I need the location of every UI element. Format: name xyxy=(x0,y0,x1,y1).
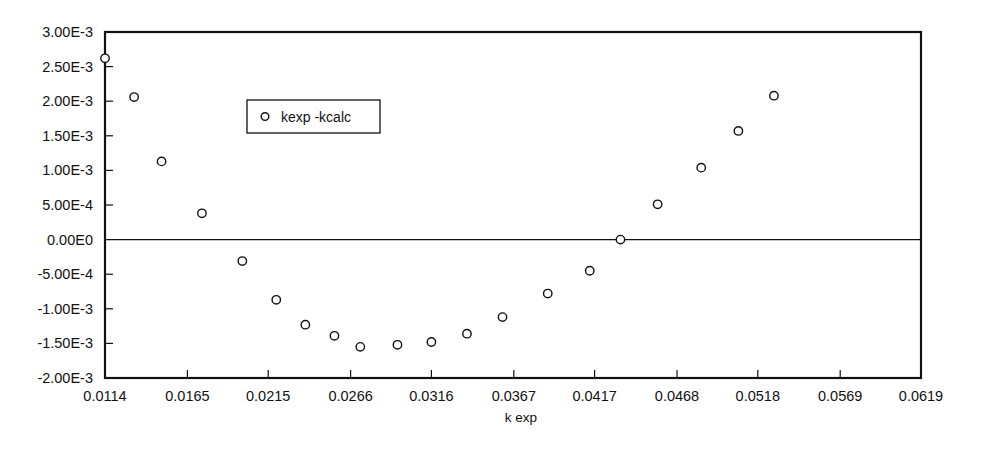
x-axis-tick-labels: 0.01140.01650.02150.02660.03160.03670.04… xyxy=(83,388,943,404)
y-tick-label: 3.00E-3 xyxy=(42,24,93,40)
data-point xyxy=(498,313,506,321)
data-point xyxy=(272,296,280,304)
data-point xyxy=(130,93,138,101)
data-point xyxy=(697,163,705,171)
data-point xyxy=(198,209,206,217)
data-point xyxy=(653,200,661,208)
y-tick-label: -5.00E-4 xyxy=(37,266,93,282)
y-axis-tick-labels: 3.00E-32.50E-32.00E-31.50E-31.00E-35.00E… xyxy=(37,24,93,386)
x-axis-tick-marks xyxy=(187,370,840,378)
x-tick-label: 0.0165 xyxy=(165,388,209,404)
data-point xyxy=(463,330,471,338)
data-point xyxy=(544,289,552,297)
x-tick-label: 0.0367 xyxy=(492,388,536,404)
y-tick-label: -1.00E-3 xyxy=(37,301,93,317)
y-tick-label: 1.00E-3 xyxy=(42,162,93,178)
legend-label: kexp -kcalc xyxy=(281,109,351,125)
data-point xyxy=(734,127,742,135)
y-axis-tick-marks xyxy=(105,67,113,344)
y-tick-label: 2.50E-3 xyxy=(42,59,93,75)
y-tick-label: 5.00E-4 xyxy=(42,197,93,213)
legend-marker-icon xyxy=(261,113,269,121)
x-tick-label: 0.0619 xyxy=(899,388,943,404)
plot-frame xyxy=(105,32,921,378)
residual-scatter-chart: 3.00E-32.50E-32.00E-31.50E-31.00E-35.00E… xyxy=(0,0,1004,452)
chart-legend: kexp -kcalc xyxy=(247,100,380,133)
x-tick-label: 0.0417 xyxy=(572,388,616,404)
x-tick-label: 0.0468 xyxy=(655,388,699,404)
x-tick-label: 0.0518 xyxy=(736,388,780,404)
data-point xyxy=(238,257,246,265)
x-tick-label: 0.0316 xyxy=(409,388,453,404)
data-point xyxy=(101,54,109,62)
y-tick-label: -1.50E-3 xyxy=(37,335,93,351)
data-point xyxy=(301,321,309,329)
y-tick-label: -2.00E-3 xyxy=(37,370,93,386)
data-point xyxy=(356,343,364,351)
data-point xyxy=(770,91,778,99)
data-point-markers xyxy=(101,54,778,351)
x-tick-label: 0.0569 xyxy=(818,388,862,404)
x-axis-title: k exp xyxy=(505,410,537,425)
x-tick-label: 0.0215 xyxy=(246,388,290,404)
x-tick-label: 0.0114 xyxy=(83,388,126,404)
y-tick-label: 2.00E-3 xyxy=(42,93,93,109)
y-tick-label: 1.50E-3 xyxy=(42,128,93,144)
x-tick-label: 0.0266 xyxy=(328,388,372,404)
data-point xyxy=(157,157,165,165)
chart-container: 3.00E-32.50E-32.00E-31.50E-31.00E-35.00E… xyxy=(0,0,1004,452)
data-point xyxy=(616,235,624,243)
data-point xyxy=(427,338,435,346)
y-tick-label: 0.00E0 xyxy=(47,232,93,248)
data-point xyxy=(586,267,594,275)
data-point xyxy=(330,332,338,340)
data-point xyxy=(393,341,401,349)
